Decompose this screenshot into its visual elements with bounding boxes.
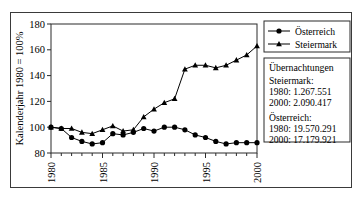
data-point-österreich-1995 <box>203 135 208 140</box>
data-point-österreich-1984 <box>90 141 95 146</box>
data-point-österreich-1983 <box>79 139 84 144</box>
y-tick-label-140: 140 <box>29 70 45 81</box>
x-axis-ticks: 19801985199019952000 <box>46 153 263 183</box>
data-point-österreich-2000 <box>254 140 259 145</box>
data-point-österreich-1998 <box>234 140 239 145</box>
info-group-0-line-0: 1980: 1.267.551 <box>269 86 332 97</box>
data-point-österreich-1991 <box>162 125 167 130</box>
chart-figure: 80100120140160180 19801985199019952000 K… <box>10 12 352 188</box>
y-tick-label-100: 100 <box>29 122 45 133</box>
info-group-1-line-0: 1980: 19.570.291 <box>269 123 337 134</box>
data-point-österreich-1997 <box>224 141 229 146</box>
x-tick-label-1985: 1985 <box>98 162 109 183</box>
y-axis-label: Kalenderjahr 1980 = 100% <box>14 31 25 145</box>
legend-label-1: Steiermark <box>295 39 337 50</box>
data-point-österreich-1996 <box>213 139 218 144</box>
y-tick-label-120: 120 <box>29 96 45 107</box>
y-tick-label-160: 160 <box>29 44 45 55</box>
info-group-name-1: Österreich: <box>269 112 312 123</box>
data-point-österreich-1990 <box>151 128 156 133</box>
info-heading: Übernachtungen <box>269 62 334 73</box>
y-tick-label-80: 80 <box>35 148 46 159</box>
y-tick-label-180: 180 <box>29 19 45 30</box>
data-point-österreich-1992 <box>172 125 177 130</box>
info-box: ÜbernachtungenSteiermark:1980: 1.267.551… <box>264 58 350 145</box>
tourism-index-line-chart: 80100120140160180 19801985199019952000 K… <box>11 13 351 187</box>
chart-legend: ÖsterreichSteiermark <box>264 21 350 52</box>
legend-marker-circle <box>276 28 281 33</box>
legend-label-0: Österreich <box>295 26 335 37</box>
y-axis-title: Kalenderjahr 1980 = 100% <box>14 31 25 145</box>
data-point-österreich-1999 <box>244 140 249 145</box>
info-group-1-line-1: 2000: 17.179.921 <box>269 134 337 145</box>
x-tick-label-1995: 1995 <box>201 162 212 183</box>
x-tick-label-2000: 2000 <box>252 162 263 183</box>
data-point-österreich-1993 <box>182 127 187 132</box>
data-point-österreich-1985 <box>100 140 105 145</box>
data-point-österreich-1989 <box>141 126 146 131</box>
data-point-österreich-1982 <box>69 135 74 140</box>
data-point-österreich-1986 <box>110 131 115 136</box>
data-point-österreich-1994 <box>193 132 198 137</box>
info-group-0-line-1: 2000: 2.090.417 <box>269 97 332 108</box>
info-group-name-0: Steiermark: <box>269 75 314 86</box>
x-tick-label-1990: 1990 <box>149 162 160 183</box>
y-axis-ticks: 80100120140160180 <box>29 19 51 159</box>
x-tick-label-1980: 1980 <box>46 162 57 183</box>
